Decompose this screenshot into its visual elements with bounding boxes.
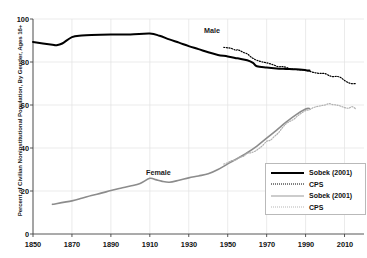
- legend-label-0: Sobek (2001): [309, 169, 352, 176]
- x-tick-1970: 1970: [259, 240, 275, 249]
- legend-swatch-solid-gray: [270, 191, 305, 201]
- y-tick-60: 60: [21, 101, 29, 110]
- legend-item-0: Sobek (2001): [270, 167, 362, 179]
- legend: Sobek (2001) CPS Sobek (2001) CPS: [265, 163, 366, 215]
- legend-item-1: CPS: [270, 179, 362, 191]
- y-tick-80: 80: [21, 58, 29, 67]
- y-tick-40: 40: [21, 144, 29, 153]
- x-tick-1990: 1990: [298, 240, 314, 249]
- x-tick-2010: 2010: [337, 240, 353, 249]
- legend-swatch-dotted-gray: [270, 202, 305, 212]
- legend-item-2: Sobek (2001): [270, 190, 362, 202]
- chart-container: Percent of Civilian Noninstitutional Pop…: [0, 0, 367, 258]
- y-tick-0: 0: [25, 230, 29, 239]
- legend-item-3: CPS: [270, 202, 362, 214]
- series-male-sobek: [33, 34, 309, 71]
- x-tick-1930: 1930: [181, 240, 197, 249]
- series-male-cps: [224, 47, 356, 83]
- x-tick-1950: 1950: [220, 240, 236, 249]
- legend-swatch-dotted-black: [270, 179, 305, 189]
- x-tick-1910: 1910: [142, 240, 158, 249]
- female-series-label: Female: [146, 168, 171, 177]
- legend-label-2: Sobek (2001): [309, 192, 352, 199]
- y-tick-20: 20: [21, 187, 29, 196]
- legend-label-3: CPS: [309, 204, 323, 211]
- x-tick-1850: 1850: [25, 240, 41, 249]
- male-series-label: Male: [204, 26, 220, 35]
- x-tick-1870: 1870: [64, 240, 80, 249]
- x-tick-1890: 1890: [103, 240, 119, 249]
- y-tick-100: 100: [17, 15, 29, 24]
- legend-label-1: CPS: [309, 181, 323, 188]
- legend-swatch-solid-black: [270, 168, 305, 178]
- plot-area: [0, 0, 367, 258]
